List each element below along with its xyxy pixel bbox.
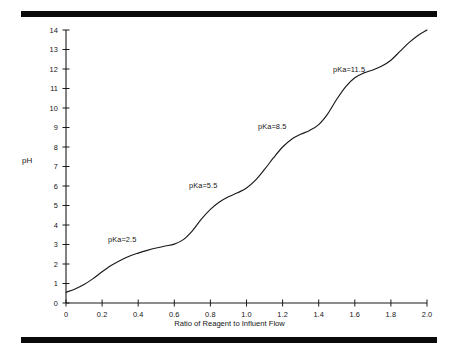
x-tick-label: 1.2 <box>271 310 295 319</box>
y-axis-title: pH <box>22 156 32 165</box>
y-tick-label: 14 <box>38 26 58 35</box>
y-tick-label: 1 <box>38 279 58 288</box>
axes-group <box>63 30 428 307</box>
y-tick-label: 9 <box>38 123 58 132</box>
pka-annotation: pKa=8.5 <box>258 122 286 131</box>
y-tick-label: 11 <box>38 84 58 93</box>
y-tick-label: 13 <box>38 45 58 54</box>
y-tick-label: 8 <box>38 143 58 152</box>
y-tick-label: 3 <box>38 240 58 249</box>
x-axis-title: Ratio of Reagent to Influent Flow <box>0 319 459 328</box>
y-tick-label: 4 <box>38 221 58 230</box>
x-tick-label: 2.0 <box>415 310 439 319</box>
y-tick-label: 10 <box>38 104 58 113</box>
x-tick-label: 0.8 <box>198 310 222 319</box>
y-tick-label: 12 <box>38 65 58 74</box>
pka-annotation: pKa=2.5 <box>108 235 136 244</box>
chart-figure: 0123456789101112131400.20.40.60.81.01.21… <box>0 0 459 350</box>
titration-curve-plot <box>0 0 459 350</box>
y-tick-label: 0 <box>38 299 58 308</box>
pka-annotation: pKa=11.5 <box>333 65 365 74</box>
y-tick-label: 5 <box>38 201 58 210</box>
pka-annotation: pKa=5.5 <box>189 181 217 190</box>
y-tick-label: 6 <box>38 182 58 191</box>
x-tick-label: 0.6 <box>162 310 186 319</box>
data-curve <box>66 30 427 292</box>
curve-group <box>66 30 427 292</box>
y-tick-label: 2 <box>38 260 58 269</box>
x-tick-label: 0.2 <box>90 310 114 319</box>
y-tick-label: 7 <box>38 162 58 171</box>
x-tick-label: 1.8 <box>379 310 403 319</box>
x-tick-label: 1.0 <box>235 310 259 319</box>
x-tick-label: 0 <box>54 310 78 319</box>
x-tick-label: 0.4 <box>126 310 150 319</box>
x-tick-label: 1.4 <box>307 310 331 319</box>
x-tick-label: 1.6 <box>343 310 367 319</box>
